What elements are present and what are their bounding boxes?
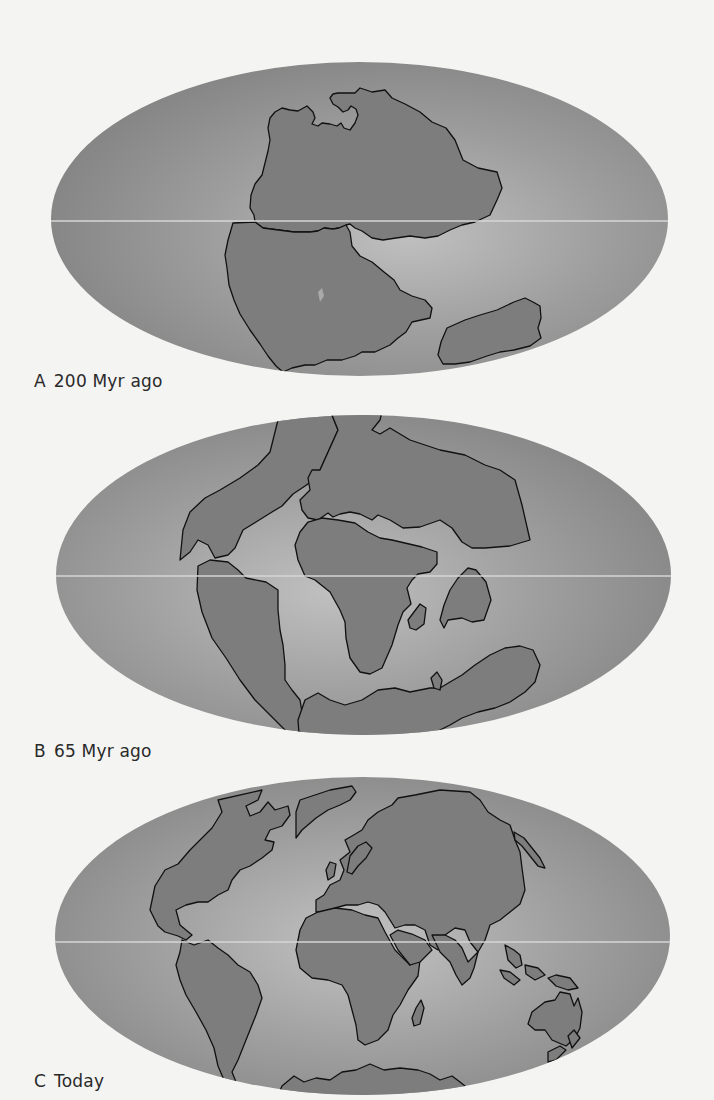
panel-label: Today [54, 1071, 104, 1091]
caption-c: CToday [34, 1071, 104, 1091]
map-panel-c: CToday [0, 0, 714, 1100]
map-c-today [0, 0, 714, 1100]
panel-letter: C [34, 1071, 46, 1091]
